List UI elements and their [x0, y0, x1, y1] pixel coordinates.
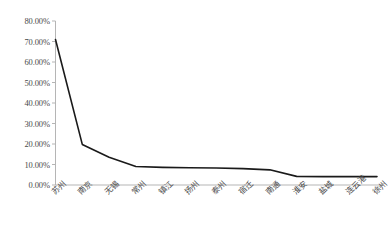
data-series-line — [56, 39, 378, 176]
line-chart: 0.00%10.00%20.00%30.00%40.00%50.00%60.00… — [0, 0, 389, 237]
plot-area — [0, 0, 389, 237]
axis-lines — [56, 21, 384, 185]
axis-tick-marks — [52, 21, 56, 185]
